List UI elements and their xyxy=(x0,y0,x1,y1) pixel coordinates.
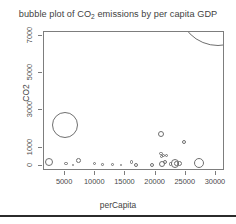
data-point-bubble xyxy=(93,162,96,165)
y-axis-tick-mark xyxy=(38,72,42,73)
x-axis-tick-label: 25000 xyxy=(175,177,196,186)
data-point-bubble xyxy=(150,163,154,167)
data-point-bubble xyxy=(134,163,138,167)
bubble-plot-screenshot: bubble plot of CO2 emissions by per capi… xyxy=(0,0,236,224)
data-point-bubble xyxy=(120,164,122,166)
data-point-bubble xyxy=(76,158,81,163)
y-axis-tick-label: 1000 xyxy=(25,138,34,154)
chart-title-suffix: emissions by per capita GDP xyxy=(95,9,217,19)
x-axis-tick-mark xyxy=(185,171,186,175)
y-axis-tick-label: 0 xyxy=(25,163,34,167)
data-point-bubble xyxy=(178,31,224,46)
y-axis-tick-label: 7000 xyxy=(25,26,34,42)
x-axis-tick-mark xyxy=(155,171,156,175)
data-point-bubble xyxy=(45,158,53,166)
data-point-bubble xyxy=(52,112,78,138)
data-point-bubble xyxy=(163,160,167,164)
x-axis-tick-label: 30000 xyxy=(205,177,226,186)
data-point-bubble xyxy=(64,162,67,165)
x-axis-tick-mark xyxy=(64,171,65,175)
y-axis-tick-mark xyxy=(38,147,42,148)
x-axis-tick-mark xyxy=(215,171,216,175)
x-axis-tick-label: 15000 xyxy=(114,177,135,186)
data-point-bubble xyxy=(165,154,168,157)
x-axis-label: perCapita xyxy=(0,200,236,210)
data-point-bubble xyxy=(194,158,204,168)
data-point-bubble xyxy=(130,160,134,164)
chart-title: bubble plot of CO2 emissions by per capi… xyxy=(0,9,236,20)
data-point-bubble xyxy=(72,164,74,166)
y-axis-tick-mark xyxy=(38,35,42,36)
x-axis-tick-label: 10000 xyxy=(84,177,105,186)
plot-area xyxy=(43,31,224,170)
x-axis-tick-mark xyxy=(94,171,95,175)
chart-title-prefix: bubble plot of CO xyxy=(19,9,91,19)
data-point-bubble xyxy=(111,163,114,166)
data-point-bubble xyxy=(101,163,104,166)
x-axis-tick-mark xyxy=(124,171,125,175)
x-axis-tick-label: 20000 xyxy=(144,177,165,186)
y-axis-tick-mark xyxy=(38,109,42,110)
bottom-rule xyxy=(0,215,236,217)
y-axis-tick-mark xyxy=(38,165,42,166)
data-point-bubble xyxy=(182,140,186,144)
y-axis-label: CO2 xyxy=(21,73,31,113)
x-axis-tick-label: 5000 xyxy=(56,177,72,186)
chart-title-subscript: 2 xyxy=(91,13,95,20)
data-point-bubble xyxy=(158,131,164,137)
